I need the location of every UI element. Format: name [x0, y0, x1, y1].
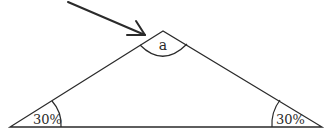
right-angle-label: 30%: [276, 112, 305, 127]
arrow-icon: [68, 2, 145, 35]
apex-angle-label: a: [159, 37, 167, 53]
left-angle-label: 30%: [33, 112, 62, 127]
triangle-diagram: a 30% 30%: [0, 0, 329, 133]
